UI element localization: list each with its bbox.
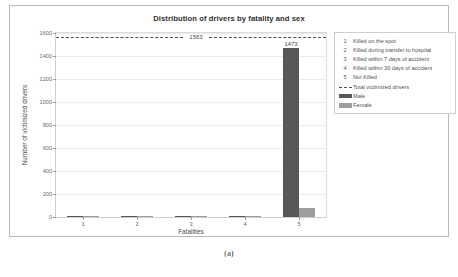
female-swatch-icon: [339, 103, 352, 108]
x-tick-label: 2: [135, 221, 138, 227]
legend-symbol: [337, 84, 353, 90]
y-tick-label: 0: [49, 214, 52, 220]
y-tick-label: 600: [43, 145, 52, 151]
reference-line-segment: [56, 37, 183, 38]
y-tick-label: 1200: [40, 76, 52, 82]
legend-label: Female: [353, 102, 372, 108]
y-tick-label: 1600: [40, 30, 52, 36]
chart-legend: 1Killed on the spot2Killed during transf…: [334, 32, 456, 114]
y-tick-label: 400: [43, 168, 52, 174]
figure-caption: (a): [0, 249, 458, 258]
legend-item: Total victimized drivers: [337, 82, 452, 91]
x-tick-mark: [299, 217, 300, 220]
y-tick-mark: [53, 33, 56, 34]
y-tick-label: 1000: [40, 99, 52, 105]
legend-label: Killed during transfer to hospital: [353, 47, 431, 53]
legend-symbol: [337, 102, 353, 108]
x-tick-mark: [137, 217, 138, 220]
figure-frame: Distribution of drivers by fatality and …: [9, 5, 449, 237]
legend-item: 5Not Killed: [337, 73, 452, 82]
bar-male-4: [229, 216, 245, 217]
legend-label: Killed within 30 days of accident: [353, 65, 432, 71]
legend-key: 2: [337, 47, 353, 53]
legend-label: Killed within 7 days of accident: [353, 56, 429, 62]
bar-female-1: [83, 216, 99, 217]
legend-item: 4Killed within 30 days of accident: [337, 64, 452, 73]
x-tick-label: 4: [243, 221, 246, 227]
reference-line-segment: [209, 37, 326, 38]
y-tick-mark: [53, 194, 56, 195]
y-tick-mark: [53, 102, 56, 103]
chart-title: Distribution of drivers by fatality and …: [10, 14, 448, 23]
bar-male-3: [175, 216, 191, 217]
y-tick-mark: [53, 217, 56, 218]
x-tick-mark: [245, 217, 246, 220]
bar-value-label: 1473: [285, 41, 298, 47]
y-tick-label: 1400: [40, 53, 52, 59]
legend-key: 4: [337, 65, 353, 71]
legend-key: 1: [337, 38, 353, 44]
legend-key: 3: [337, 56, 353, 62]
bar-female-5: [299, 208, 315, 217]
legend-item: 3Killed within 7 days of accident: [337, 54, 452, 63]
plot-area: 02004006008001000120014001600 12345 1473…: [55, 32, 327, 218]
bar-male-2: [121, 216, 137, 217]
legend-item: Male: [337, 91, 452, 100]
bar-male-5: 1473: [283, 48, 299, 217]
y-tick-mark: [53, 171, 56, 172]
bar-male-1: [67, 216, 83, 217]
x-tick-mark: [191, 217, 192, 220]
legend-label: Killed on the spot: [353, 38, 396, 44]
dashed-line-icon: [339, 87, 352, 88]
x-tick-label: 5: [297, 221, 300, 227]
bar-female-3: [191, 216, 207, 217]
legend-symbol: [337, 93, 353, 99]
legend-item: 2Killed during transfer to hospital: [337, 45, 452, 54]
x-tick-label: 3: [189, 221, 192, 227]
legend-label: Not Killed: [353, 74, 377, 80]
y-tick-mark: [53, 125, 56, 126]
y-axis-title: Number of victimized drivers: [21, 85, 28, 166]
reference-line-label: 1563: [187, 34, 204, 40]
y-tick-mark: [53, 56, 56, 57]
legend-item: 1Killed on the spot: [337, 36, 452, 45]
legend-label: Male: [353, 93, 365, 99]
x-tick-label: 1: [81, 221, 84, 227]
bar-female-2: [137, 216, 153, 217]
male-swatch-icon: [339, 94, 352, 99]
y-tick-mark: [53, 79, 56, 80]
bar-female-4: [245, 216, 261, 217]
y-tick-mark: [53, 148, 56, 149]
legend-item: Female: [337, 100, 452, 109]
x-tick-mark: [83, 217, 84, 220]
y-tick-label: 200: [43, 191, 52, 197]
legend-label: Total victimized drivers: [353, 84, 409, 90]
x-axis-title: Fatalities: [178, 228, 204, 235]
y-tick-label: 800: [43, 122, 52, 128]
legend-key: 5: [337, 74, 353, 80]
